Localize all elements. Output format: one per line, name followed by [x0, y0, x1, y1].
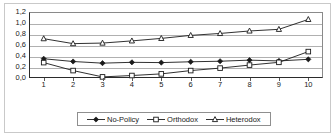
- legend-marker-open-triangle-icon: [206, 115, 224, 124]
- data-point-marker: [159, 72, 164, 77]
- data-point-marker: [41, 60, 46, 65]
- data-point-marker: [218, 59, 223, 64]
- data-point-marker: [129, 60, 134, 65]
- x-axis-tick-label: 7: [218, 80, 222, 89]
- data-point-marker: [100, 61, 105, 66]
- x-axis-tick-label: 6: [189, 80, 193, 89]
- chart-legend: No-PolicyOrthodoxHeterodox: [77, 112, 271, 126]
- data-point-marker: [188, 68, 193, 73]
- y-axis-tick-label: 0,2: [16, 63, 26, 71]
- x-axis-tick-label: 3: [100, 80, 104, 89]
- legend-marker-open-square-icon: [147, 115, 165, 124]
- x-axis-tick-label: 10: [304, 80, 312, 89]
- x-axis-tick-mark: [191, 78, 192, 81]
- y-axis-tick-label: 1,2: [16, 8, 26, 16]
- legend-item-heterodox[interactable]: Heterodox: [206, 115, 261, 124]
- x-axis-tick-mark: [308, 78, 309, 81]
- chart-container: 0,00,20,40,60,81,01,2 12345678910 No-Pol…: [0, 0, 336, 138]
- series-orthodox: [41, 49, 310, 79]
- x-axis-tick-mark: [279, 78, 280, 81]
- x-axis-tick-labels: 12345678910: [29, 80, 323, 92]
- series-line: [44, 52, 309, 77]
- x-axis-tick-mark: [161, 78, 162, 81]
- data-point-marker: [306, 57, 311, 62]
- data-point-marker: [71, 59, 76, 64]
- x-axis-tick-mark: [132, 78, 133, 81]
- legend-item-no-policy[interactable]: No-Policy: [87, 115, 139, 124]
- series-no-policy: [41, 56, 311, 66]
- data-point-marker: [306, 49, 311, 54]
- data-series-layer: [29, 12, 323, 78]
- series-heterodox: [41, 17, 311, 46]
- x-axis-tick-mark: [103, 78, 104, 81]
- data-point-marker: [218, 66, 223, 71]
- data-point-marker: [306, 17, 311, 22]
- legend-marker-filled-diamond-icon: [87, 115, 105, 124]
- x-axis-tick-label: 1: [42, 80, 46, 89]
- data-point-marker: [188, 59, 193, 64]
- y-axis-tick-label: 0,4: [16, 52, 26, 60]
- legend-item-label: No-Policy: [107, 115, 139, 124]
- x-axis-tick-label: 2: [71, 80, 75, 89]
- legend-item-orthodox[interactable]: Orthodox: [147, 115, 198, 124]
- y-axis-tick-labels: 0,00,20,40,60,81,01,2: [6, 12, 26, 78]
- x-axis-tick-label: 4: [130, 80, 134, 89]
- x-axis-tick-label: 8: [247, 80, 251, 89]
- x-axis-tick-mark: [250, 78, 251, 81]
- data-point-marker: [159, 60, 164, 65]
- data-point-marker: [277, 60, 282, 65]
- x-axis-tick-label: 5: [159, 80, 163, 89]
- x-axis-tick-mark: [44, 78, 45, 81]
- series-line: [44, 59, 309, 63]
- data-point-marker: [41, 36, 46, 41]
- data-point-marker: [247, 58, 252, 63]
- x-axis-tick-mark: [220, 78, 221, 81]
- legend-item-label: Orthodox: [167, 115, 198, 124]
- data-point-marker: [247, 63, 252, 68]
- y-axis-tick-label: 0,6: [16, 41, 26, 49]
- y-axis-tick-label: 0,0: [16, 74, 26, 82]
- series-line: [44, 19, 309, 43]
- x-axis-tick-mark: [73, 78, 74, 81]
- data-point-marker: [71, 68, 76, 73]
- y-axis-tick-label: 1,0: [16, 19, 26, 27]
- legend-item-label: Heterodox: [226, 115, 261, 124]
- x-axis-tick-label: 9: [277, 80, 281, 89]
- y-axis-tick-label: 0,8: [16, 30, 26, 38]
